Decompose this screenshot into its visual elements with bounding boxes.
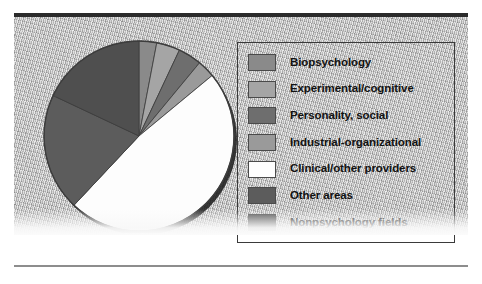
- pie-slice-group: [44, 41, 234, 231]
- legend-item-personality-social[interactable]: Personality, social: [238, 104, 454, 128]
- bottom-rule: [14, 265, 468, 267]
- legend-swatch-industrial-organizational: [248, 134, 276, 151]
- legend-swatch-experimental-cognitive: [248, 81, 276, 98]
- legend-item-other-areas[interactable]: Other areas: [238, 184, 454, 208]
- legend-label-industrial-organizational: Industrial-organizational: [290, 137, 421, 149]
- legend-label-experimental-cognitive: Experimental/cognitive: [290, 83, 414, 95]
- figure-panel: Biopsychology Experimental/cognitive Per…: [14, 17, 468, 235]
- legend-swatch-nonpsychology-fields: [248, 214, 276, 231]
- legend-item-experimental-cognitive[interactable]: Experimental/cognitive: [238, 77, 454, 101]
- legend-item-biopsychology[interactable]: Biopsychology: [238, 50, 454, 74]
- legend-label-other-areas: Other areas: [290, 190, 353, 202]
- pie-chart: [40, 27, 240, 233]
- legend-swatch-personality-social: [248, 107, 276, 124]
- legend-label-clinical-other-providers: Clinical/other providers: [290, 163, 416, 175]
- pie-chart-svg: [40, 27, 240, 233]
- legend-swatch-biopsychology: [248, 54, 276, 71]
- legend-item-clinical-other-providers[interactable]: Clinical/other providers: [238, 157, 454, 181]
- legend: Biopsychology Experimental/cognitive Per…: [237, 42, 455, 243]
- legend-label-personality-social: Personality, social: [290, 110, 388, 122]
- legend-item-industrial-organizational[interactable]: Industrial-organizational: [238, 130, 454, 154]
- legend-swatch-other-areas: [248, 187, 276, 204]
- legend-label-biopsychology: Biopsychology: [290, 57, 371, 69]
- legend-item-list: Biopsychology Experimental/cognitive Per…: [238, 43, 454, 242]
- legend-item-nonpsychology-fields[interactable]: Nonpsychology fields: [238, 211, 454, 235]
- legend-label-nonpsychology-fields: Nonpsychology fields: [290, 217, 408, 229]
- figure-page: Biopsychology Experimental/cognitive Per…: [0, 0, 482, 284]
- legend-swatch-clinical-other-providers: [248, 161, 276, 178]
